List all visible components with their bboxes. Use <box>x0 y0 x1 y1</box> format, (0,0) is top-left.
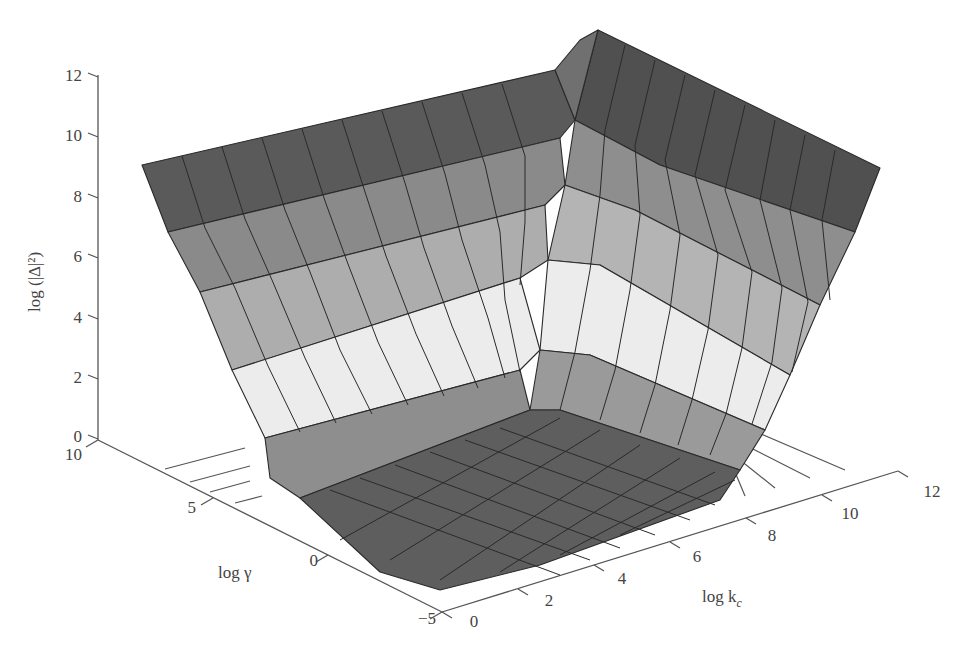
kc-tick-8: 8 <box>768 526 777 545</box>
z-tick-8: 8 <box>74 187 83 206</box>
z-tick-2: 2 <box>74 368 83 387</box>
gamma-tick-minus5: −5 <box>418 609 436 628</box>
gamma-axis-label: log γ <box>218 563 252 582</box>
kc-tick-0: 0 <box>470 612 479 631</box>
z-tick-10: 10 <box>65 126 82 145</box>
surface <box>142 30 880 590</box>
kc-tick-2: 2 <box>545 591 554 610</box>
kc-tick-10: 10 <box>842 504 859 523</box>
kc-axis-label: log kc <box>702 587 742 610</box>
surface-plot: 12 10 8 6 4 2 0 10 5 0 −5 0 2 4 6 <box>0 0 975 654</box>
z-axis-label: log (|Δ|²) <box>25 252 44 312</box>
z-tick-6: 6 <box>74 247 83 266</box>
gamma-tick-0: 0 <box>310 551 319 570</box>
z-ticks <box>88 73 98 439</box>
gamma-tick-10: 10 <box>65 445 82 464</box>
gamma-tick-5: 5 <box>188 498 197 517</box>
z-tick-0: 0 <box>74 427 83 446</box>
z-tick-12: 12 <box>65 66 82 85</box>
kc-tick-6: 6 <box>693 547 702 566</box>
kc-axis-label-main: log k <box>702 587 737 606</box>
kc-tick-12: 12 <box>924 482 941 501</box>
z-tick-4: 4 <box>74 308 83 327</box>
kc-axis-label-sub: c <box>736 596 742 610</box>
kc-tick-4: 4 <box>618 569 627 588</box>
